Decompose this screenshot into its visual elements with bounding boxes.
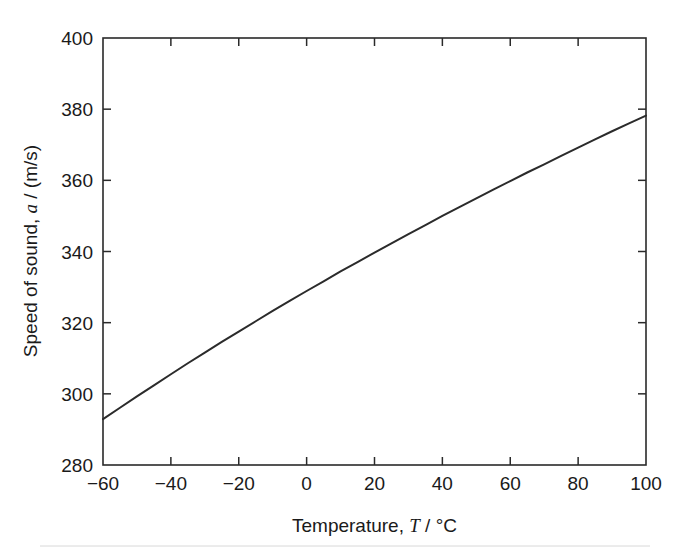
- y-tick-label: 400: [61, 28, 93, 49]
- x-axis-title: Temperature, T / °C: [292, 515, 457, 536]
- x-tick-label: 20: [364, 473, 385, 494]
- x-tick-label: −40: [155, 473, 187, 494]
- x-tick-label: 60: [500, 473, 521, 494]
- y-tick-label: 380: [61, 99, 93, 120]
- x-tick-label: 40: [432, 473, 453, 494]
- y-axis-title: Speed of sound, a / (m/s): [20, 145, 41, 357]
- y-tick-label: 360: [61, 170, 93, 191]
- x-tick-label: 100: [630, 473, 662, 494]
- x-tick-label: 80: [568, 473, 589, 494]
- figure-container: 280300320340360380400 −60−40−20020406080…: [0, 0, 690, 551]
- y-tick-label: 300: [61, 384, 93, 405]
- x-tick-label: 0: [301, 473, 312, 494]
- y-tick-label: 340: [61, 242, 93, 263]
- speed-of-sound-line-chart: 280300320340360380400 −60−40−20020406080…: [0, 0, 690, 551]
- x-axis-tick-labels: −60−40−20020406080100: [87, 473, 662, 494]
- x-tick-label: −20: [223, 473, 255, 494]
- y-tick-label: 320: [61, 313, 93, 334]
- x-tick-label: −60: [87, 473, 119, 494]
